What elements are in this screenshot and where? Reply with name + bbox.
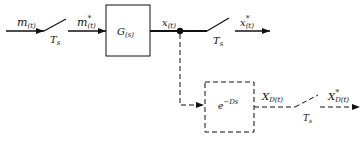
- plant-transfer-function-label: G(s): [117, 26, 134, 39]
- delayed-output-label: XD(t): [261, 91, 283, 104]
- delay-block: [205, 82, 254, 132]
- pickoff-point: [177, 28, 183, 34]
- output-signal-label: x(t): [162, 17, 176, 30]
- delay-branch-line: [180, 34, 204, 105]
- sampler-3-label: Ts: [303, 113, 312, 124]
- delay-transfer-function-label: e−Ds: [218, 98, 239, 111]
- sampler-1-label: Ts: [50, 34, 61, 47]
- sampled-delayed-output-label: X*D(t): [327, 88, 349, 104]
- sampler-3-switch: [295, 95, 318, 107]
- sampler-1-switch: [44, 19, 66, 31]
- sampled-input-label: m*(t): [77, 14, 96, 30]
- sampled-output-label: x*(t): [240, 14, 254, 30]
- block-diagram: m(t) Ts m*(t) G(s) x(t) Ts x*(t) e−Ds XD…: [0, 0, 364, 142]
- sampler-2-label: Ts: [213, 35, 224, 48]
- input-signal-label: m(t): [17, 16, 36, 30]
- sampler-2-switch: [207, 18, 229, 31]
